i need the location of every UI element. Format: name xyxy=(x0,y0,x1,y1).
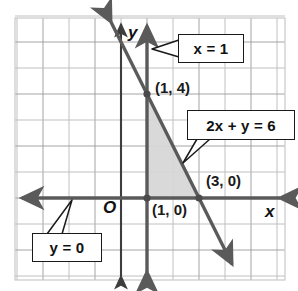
vertex-dot-1-0 xyxy=(143,194,150,201)
vertex-dot-3-0 xyxy=(195,194,202,201)
callout-2x-plus-y-equals-6: 2x + y = 6 xyxy=(187,110,295,140)
graph-screenshot: x = 1 2x + y = 6 y = 0 (1, 4) (3, 0) (1,… xyxy=(0,0,298,291)
x-axis-label: x xyxy=(265,203,274,220)
vertex-dot-1-4 xyxy=(143,90,150,97)
callout-x-equals-1-text: x = 1 xyxy=(194,41,229,56)
callout-x-equals-1: x = 1 xyxy=(178,34,244,63)
point-label-3-0: (3, 0) xyxy=(206,173,241,188)
callout-y-equals-0-text: y = 0 xyxy=(50,240,85,255)
y-axis-label: y xyxy=(128,24,137,41)
callout-y-equals-0: y = 0 xyxy=(32,233,102,262)
callout-2x-plus-y-equals-6-text: 2x + y = 6 xyxy=(206,118,276,133)
origin-label: O xyxy=(103,199,116,216)
point-label-1-0: (1, 0) xyxy=(152,202,187,217)
point-label-1-4: (1, 4) xyxy=(155,80,190,95)
